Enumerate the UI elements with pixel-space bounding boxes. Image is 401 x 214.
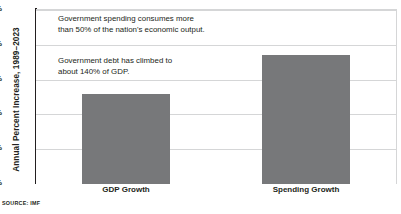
y-tick-label: 4%	[0, 40, 2, 48]
gridline	[36, 45, 396, 46]
y-axis-title: Annual Percent Increase, 1989–2023	[12, 10, 21, 190]
x-tick-label: GDP Growth	[36, 186, 216, 195]
y-tick-label: 2%	[0, 109, 2, 117]
y-tick-label: 1%	[0, 144, 2, 152]
y-tick-label: 0%	[0, 179, 2, 187]
bar-chart-figure: Annual Percent Increase, 1989–2023 0%1%2…	[0, 0, 401, 214]
annotation-debt-level: Government debt has climbed to about 140…	[58, 55, 288, 78]
source-note: SOURCE: IMF	[2, 200, 40, 206]
bar	[82, 94, 170, 184]
annotation-spending-share: Government spending consumes more than 5…	[58, 13, 288, 36]
gridline	[36, 10, 396, 11]
x-tick-label: Spending Growth	[216, 186, 396, 195]
y-tick-label: 5%	[0, 5, 2, 13]
y-tick-label: 3%	[0, 75, 2, 83]
